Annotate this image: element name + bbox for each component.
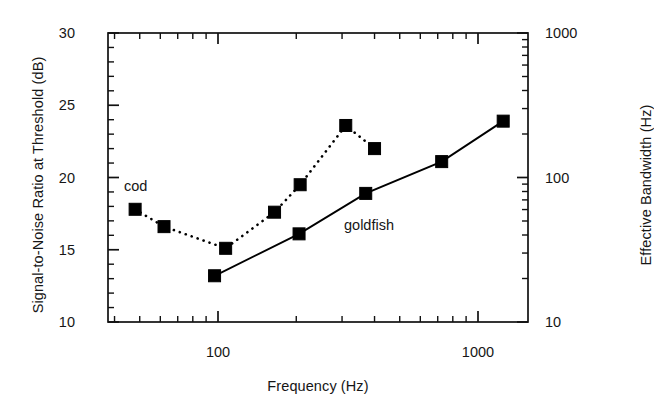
data-point-goldfish-4 <box>497 115 509 127</box>
data-point-goldfish-1 <box>293 228 305 240</box>
data-point-goldfish-3 <box>436 156 448 168</box>
axes-frame <box>108 33 528 322</box>
data-point-goldfish-0 <box>209 270 221 282</box>
data-point-cod-1 <box>158 221 170 233</box>
data-point-cod-2 <box>220 242 232 254</box>
data-series <box>129 115 509 282</box>
data-point-cod-5 <box>340 119 352 131</box>
data-point-cod-0 <box>129 203 141 215</box>
plot-frame <box>108 33 528 322</box>
data-point-cod-6 <box>369 143 381 155</box>
series-line-goldfish <box>215 121 504 276</box>
axis-ticks <box>108 33 528 322</box>
data-point-cod-4 <box>294 179 306 191</box>
data-point-goldfish-2 <box>360 187 372 199</box>
series-line-cod <box>135 126 374 249</box>
data-point-cod-3 <box>269 206 281 218</box>
